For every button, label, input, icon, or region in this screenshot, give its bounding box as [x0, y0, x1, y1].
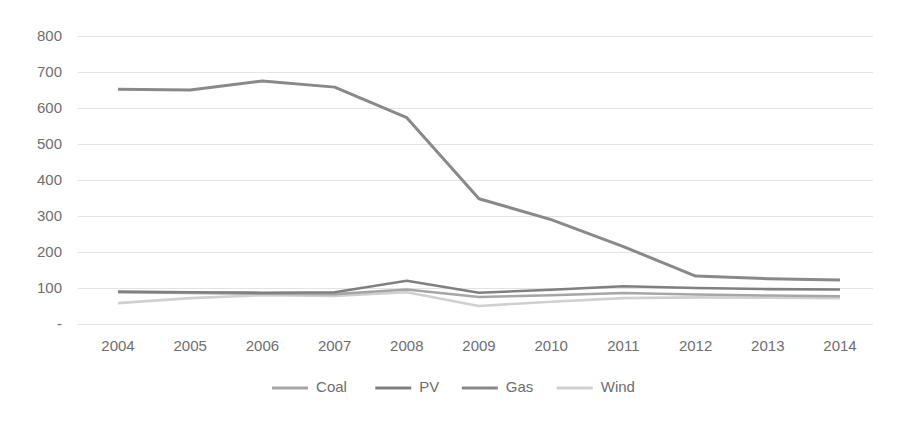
legend-label-pv[interactable]: PV [419, 378, 439, 395]
y-axis-tick-label: 300 [37, 207, 62, 224]
series-line-pv [118, 281, 840, 293]
x-axis-tick-label: 2011 [607, 337, 639, 354]
y-axis-tick-label: 100 [37, 279, 62, 296]
data-series [118, 81, 840, 306]
y-axis-tick-label: - [57, 315, 62, 332]
y-axis-tick-label: 800 [37, 27, 62, 44]
x-axis-tick-label: 2012 [679, 337, 712, 354]
y-axis-tick-label: 400 [37, 171, 62, 188]
x-axis-tick-label: 2005 [174, 337, 207, 354]
x-axis-tick-labels: 2004200520062007200820092010201120122013… [101, 337, 856, 354]
chart-legend: CoalPVGasWind [272, 378, 635, 395]
y-axis-tick-label: 500 [37, 135, 62, 152]
y-axis-tick-labels: 800700600500400300200100- [37, 27, 62, 332]
y-axis-tick-label: 700 [37, 63, 62, 80]
x-axis-tick-label: 2007 [318, 337, 351, 354]
x-axis-tick-label: 2013 [751, 337, 784, 354]
x-axis-tick-label: 2006 [246, 337, 279, 354]
x-axis-tick-label: 2009 [462, 337, 495, 354]
legend-label-wind[interactable]: Wind [601, 378, 635, 395]
chart-canvas: 800700600500400300200100- 20042005200620… [0, 0, 906, 422]
legend-label-coal[interactable]: Coal [316, 378, 347, 395]
x-axis-tick-label: 2004 [101, 337, 134, 354]
y-axis-tick-label: 200 [37, 243, 62, 260]
y-axis-tick-label: 600 [37, 99, 62, 116]
gridlines [78, 37, 873, 325]
legend-label-gas[interactable]: Gas [506, 378, 534, 395]
line-chart: 800700600500400300200100- 20042005200620… [0, 0, 906, 422]
x-axis-tick-label: 2014 [823, 337, 856, 354]
x-axis-tick-label: 2010 [535, 337, 568, 354]
x-axis-tick-label: 2008 [390, 337, 423, 354]
